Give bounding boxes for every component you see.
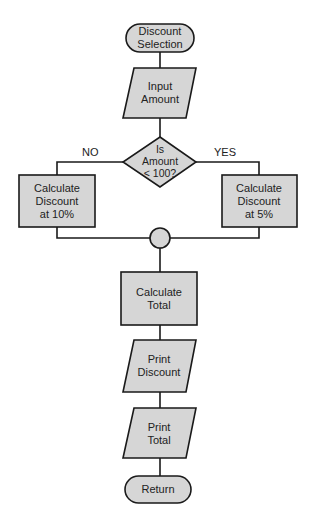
print-total-label: Print Total (147, 421, 170, 447)
input-label-line1: Input (141, 80, 179, 93)
print-total-line2: Total (147, 434, 170, 447)
print-discount-line2: Discount (138, 366, 181, 379)
left-process-line3: at 10% (34, 208, 80, 221)
total-label-line2: Total (136, 299, 182, 312)
start-label-line1: Discount (137, 25, 182, 38)
print-total-line1: Print (147, 421, 170, 434)
print-discount-label: Print Discount (138, 353, 181, 379)
right-process-label: Calculate Discount at 5% (236, 182, 282, 221)
decision-label-line2: Amount (142, 155, 178, 167)
decision-label: Is Amount < 100? (142, 143, 178, 179)
total-label-line1: Calculate (136, 286, 182, 299)
branch-yes-label: YES (214, 146, 236, 158)
total-label: Calculate Total (136, 286, 182, 312)
edge-right-connector (170, 227, 259, 238)
input-label: Input Amount (141, 80, 179, 106)
left-process-label: Calculate Discount at 10% (34, 182, 80, 221)
print-discount-line1: Print (138, 353, 181, 366)
edge-left-connector (57, 227, 150, 238)
edge-decision-yes (196, 162, 259, 175)
decision-label-line3: < 100? (142, 167, 178, 179)
decision-label-line1: Is (142, 143, 178, 155)
right-process-line3: at 5% (236, 208, 282, 221)
edge-decision-no (57, 162, 123, 175)
return-label-line1: Return (141, 483, 174, 496)
left-process-line2: Discount (34, 195, 80, 208)
right-process-line2: Discount (236, 195, 282, 208)
return-label: Return (141, 483, 174, 496)
left-process-line1: Calculate (34, 182, 80, 195)
start-label-line2: Selection (137, 38, 182, 51)
start-label: Discount Selection (137, 25, 182, 51)
merge-connector (150, 228, 170, 248)
branch-no-label: NO (82, 146, 99, 158)
right-process-line1: Calculate (236, 182, 282, 195)
input-label-line2: Amount (141, 93, 179, 106)
